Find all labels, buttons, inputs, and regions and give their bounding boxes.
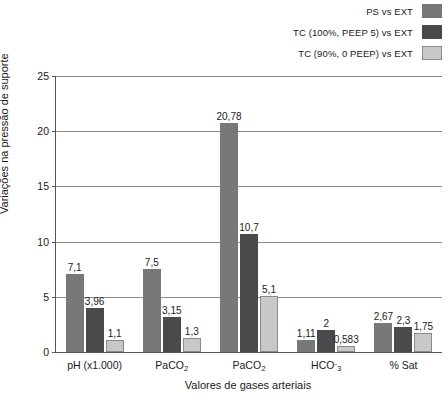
x-category-label: pH (x1.000) <box>56 359 133 371</box>
x-category-label: PaCO2 <box>133 359 210 371</box>
x-category-label: PaCO2 <box>210 359 287 371</box>
legend-label-tc-90-0peep-vs-ext: TC (90%, 0 PEEP) vs EXT <box>298 48 413 59</box>
legend-swatch-tc-90-0peep-vs-ext <box>422 46 442 60</box>
bar-chart: PS vs EXT TC (100%, PEEP 5) vs EXT TC (9… <box>0 0 448 403</box>
x-category-label: HCO-3 <box>288 359 365 371</box>
bar-value-label: 1,3 <box>185 326 199 337</box>
bar: 1,75 <box>414 333 432 352</box>
bar-value-label: 2,3 <box>396 315 410 326</box>
bar-group: 7,53,151,3PaCO2 <box>133 76 210 352</box>
bar: 5,1 <box>260 296 278 352</box>
bar-value-label: 7,1 <box>68 262 82 273</box>
legend-item-ps-vs-ext: PS vs EXT <box>366 4 442 18</box>
bar: 3,96 <box>86 308 104 352</box>
bar-group: 1,1120,583HCO-3 <box>288 76 365 352</box>
x-category-label: % Sat <box>365 359 442 371</box>
y-tick-label-10: 10 <box>37 236 49 248</box>
bar: 7,5 <box>143 269 161 352</box>
bar-value-label: 20,78 <box>216 111 241 122</box>
bar-value-label: 3,96 <box>85 296 104 307</box>
y-tick-label-20: 20 <box>37 125 49 137</box>
y-tick-label-5: 5 <box>43 291 49 303</box>
bar: 2 <box>317 330 335 352</box>
bar: 1,1 <box>106 340 124 352</box>
y-tick-label-25: 25 <box>37 70 49 82</box>
bar: 1,3 <box>183 338 201 352</box>
bar-value-label: 2 <box>323 318 329 329</box>
chart-legend: PS vs EXT TC (100%, PEEP 5) vs EXT TC (9… <box>293 4 442 60</box>
bar: 7,1 <box>66 274 84 352</box>
legend-label-ps-vs-ext: PS vs EXT <box>366 6 413 17</box>
bar: 3,15 <box>163 317 181 352</box>
tick-mark-0 <box>52 352 56 353</box>
bar-value-label: 1,1 <box>108 328 122 339</box>
legend-swatch-ps-vs-ext <box>422 4 442 18</box>
bar: 1,11 <box>297 340 315 352</box>
bar: 20,78 <box>220 123 238 352</box>
bar-value-label: 5,1 <box>262 284 276 295</box>
bar-value-label: 1,11 <box>297 328 316 339</box>
bar-group: 2,672,31,75% Sat <box>365 76 442 352</box>
y-tick-label-15: 15 <box>37 180 49 192</box>
y-tick-label-0: 0 <box>43 346 49 358</box>
legend-item-tc-100-peep5-vs-ext: TC (100%, PEEP 5) vs EXT <box>293 25 442 39</box>
plot-area: 0510152025 7,13,961,1pH (x1.000)7,53,151… <box>55 76 442 353</box>
legend-label-tc-100-peep5-vs-ext: TC (100%, PEEP 5) vs EXT <box>293 27 413 38</box>
y-axis-title: Variações na pressão de suporte <box>0 53 10 214</box>
bar-value-label: 7,5 <box>145 257 159 268</box>
bar-value-label: 10,7 <box>239 222 258 233</box>
bar-value-label: 2,67 <box>374 311 393 322</box>
bar-group: 7,13,961,1pH (x1.000) <box>56 76 133 352</box>
bar-groups: 7,13,961,1pH (x1.000)7,53,151,3PaCO220,7… <box>56 76 442 352</box>
bar-value-label: 1,75 <box>414 321 433 332</box>
bar-value-label: 3,15 <box>162 305 181 316</box>
legend-swatch-tc-100-peep5-vs-ext <box>422 25 442 39</box>
legend-item-tc-90-0peep-vs-ext: TC (90%, 0 PEEP) vs EXT <box>298 46 442 60</box>
bar: 2,67 <box>374 323 392 352</box>
bar: 10,7 <box>240 234 258 352</box>
bar-value-label: 0,583 <box>334 334 359 345</box>
bar: 0,583 <box>337 346 355 352</box>
x-axis-title: Valores de gases arteriais <box>55 379 441 391</box>
bar: 2,3 <box>394 327 412 352</box>
bar-group: 20,7810,75,1PaCO2 <box>210 76 287 352</box>
